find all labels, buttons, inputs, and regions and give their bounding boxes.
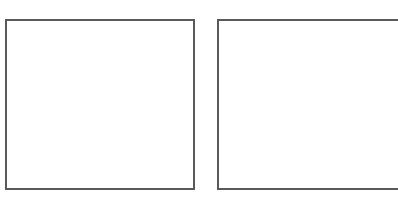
left-empty-panel bbox=[5, 19, 195, 190]
canvas bbox=[0, 0, 398, 204]
right-empty-panel bbox=[217, 19, 398, 190]
